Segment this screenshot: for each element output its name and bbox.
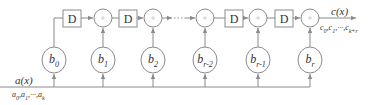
coef-sub: 0 <box>55 60 59 69</box>
b0-to-delay-wire <box>54 18 63 47</box>
coef-sub: 2 <box>154 60 158 69</box>
coef-sub: r-1 <box>256 60 266 69</box>
delay-label-3: D <box>230 13 239 25</box>
adder-5 <box>301 9 319 27</box>
coef-sub: r <box>311 60 314 69</box>
delay-label-2: D <box>124 13 133 25</box>
delay-label-4: D <box>280 13 289 25</box>
coef-label-br: br <box>305 53 314 68</box>
diagram-canvas: D D D D b0 b1 b2 br-2 br-1 br a(x) a0,a1… <box>0 0 377 105</box>
coef-label-br-2: br-2 <box>197 53 213 68</box>
adder-3 <box>196 9 214 27</box>
delay-label-1: D <box>68 13 77 25</box>
coef-label-b1: b1 <box>98 53 108 68</box>
adder-1 <box>94 9 112 27</box>
coef-sub: 1 <box>104 60 108 69</box>
adder-4 <box>249 9 267 27</box>
coef-label-br-1: br-1 <box>250 53 266 68</box>
output-polynomial-label: c(x) <box>331 6 348 17</box>
adder-2 <box>144 9 162 27</box>
coef-label-b0: b0 <box>49 53 59 68</box>
input-sequence-label: a0,a1,···,ak <box>12 91 45 101</box>
coef-label-b2: b2 <box>148 53 158 68</box>
input-polynomial-label: a(x) <box>15 75 33 86</box>
output-sequence-label: c0,c1,···,ck+r <box>320 24 358 34</box>
coef-sub: r-2 <box>203 60 213 69</box>
